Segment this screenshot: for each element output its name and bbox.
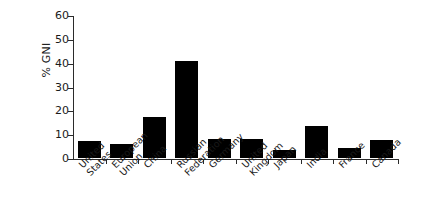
y-tick-label: 10 — [47, 128, 69, 141]
y-tick-label: 50 — [47, 33, 69, 46]
bar-chart: % GNI 0102030405060 United StatesEuropea… — [0, 0, 430, 211]
y-tick-label: 20 — [47, 104, 69, 117]
y-tick-label: 30 — [47, 81, 69, 94]
y-tick-label: 60 — [47, 9, 69, 22]
x-axis-labels: United StatesEuropean UnionChinaRussian … — [73, 163, 430, 211]
y-tick-label: 0 — [47, 152, 69, 165]
y-tick-label: 40 — [47, 57, 69, 70]
y-axis-line — [73, 16, 74, 160]
